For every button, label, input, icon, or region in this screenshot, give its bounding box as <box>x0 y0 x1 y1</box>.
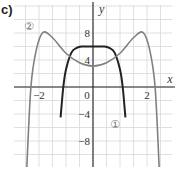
y-tick-label: 8 <box>85 27 91 39</box>
chart: xy−20284−4−8②① <box>0 0 177 174</box>
x-tick-label: 2 <box>144 89 150 101</box>
x-axis-label: x <box>166 72 173 86</box>
x-tick-label: 0 <box>84 89 90 101</box>
y-axis-label: y <box>98 2 105 16</box>
axes <box>14 2 175 167</box>
y-tick-label: −8 <box>78 135 90 147</box>
y-tick-label: −4 <box>78 108 90 120</box>
labels: xy−20284−4−8②① <box>24 2 173 147</box>
curve-1-label: ① <box>110 118 120 131</box>
y-tick-label: 4 <box>85 54 91 66</box>
curve-2-label: ② <box>24 20 34 33</box>
x-tick-label: −2 <box>33 89 45 101</box>
